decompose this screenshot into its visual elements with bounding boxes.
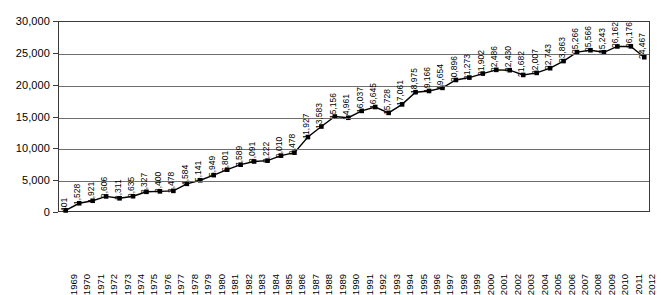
data-point-label: 22,430 <box>504 46 513 72</box>
data-point-label: 19,166 <box>423 67 432 93</box>
data-point-label: 25,566 <box>584 26 593 52</box>
x-tick-label: 1995 <box>419 274 429 295</box>
data-point-label: 9,010 <box>275 136 284 157</box>
x-tick-label: 2001 <box>499 274 509 295</box>
x-tick-label: 1993 <box>392 274 402 295</box>
x-tick-label: 2009 <box>607 274 617 295</box>
x-tick-label: 2002 <box>513 274 523 295</box>
data-point-label: 26,176 <box>625 22 634 48</box>
data-point-label: 3,400 <box>154 172 163 193</box>
x-tick-label: 1997 <box>445 274 455 295</box>
data-point-label: 19,654 <box>436 64 445 90</box>
y-tick-label: 20,000 <box>16 79 50 90</box>
gridline <box>59 149 649 150</box>
y-axis: 30,00025,00020,00015,00010,0005,0000 <box>0 0 58 214</box>
gridline <box>59 86 649 87</box>
data-point-label: 21,273 <box>463 54 472 80</box>
data-point-label: 11,927 <box>302 114 311 139</box>
data-point-label: 17,061 <box>396 80 405 106</box>
data-point-label: 2,606 <box>100 177 109 198</box>
y-tick-mark <box>53 212 58 213</box>
x-tick-label: 2004 <box>540 274 550 295</box>
y-tick-label: 5,000 <box>22 175 50 186</box>
data-point-label: 24,467 <box>638 33 647 59</box>
data-point-label: 1,921 <box>87 181 96 202</box>
data-point-label: 14,961 <box>342 94 351 120</box>
x-tick-label: 2012 <box>647 274 657 295</box>
data-point-label: 1,528 <box>73 184 82 205</box>
x-tick-label: 1972 <box>109 274 119 295</box>
x-tick-label: 1984 <box>271 274 281 295</box>
x-tick-label: 1986 <box>297 274 307 295</box>
data-point-label: 26,162 <box>611 22 620 48</box>
y-tick-label: 25,000 <box>16 47 50 58</box>
x-tick-label: 2000 <box>486 274 496 295</box>
x-tick-label: 1987 <box>311 274 321 295</box>
data-point-label: 23,863 <box>558 37 567 63</box>
x-tick-label: 2010 <box>620 274 630 295</box>
x-tick-label: 1973 <box>123 274 133 295</box>
data-point-label: 5,949 <box>208 156 217 177</box>
x-tick-label: 1998 <box>459 274 469 295</box>
x-tick-label: 1988 <box>324 274 334 295</box>
data-point-label: 16,645 <box>369 83 378 109</box>
x-tick-label: 1983 <box>257 274 267 295</box>
x-tick-label: 1989 <box>338 274 348 295</box>
x-tick-label: 1976 <box>163 274 173 295</box>
data-point-label: 5,141 <box>194 161 203 182</box>
x-tick-label: 1974 <box>136 274 146 295</box>
data-point-label: 401 <box>60 198 69 212</box>
y-tick-label: 15,000 <box>16 111 50 122</box>
x-tick-label: 1991 <box>365 274 375 295</box>
x-tick-label: 1978 <box>190 274 200 295</box>
x-tick-label: 1981 <box>230 274 240 295</box>
data-point-label: 4,584 <box>181 165 190 186</box>
x-tick-label: 2006 <box>567 274 577 295</box>
data-point-label: 18,975 <box>410 68 419 94</box>
x-tick-label: 1982 <box>244 274 254 295</box>
x-tick-label: 1980 <box>217 274 227 295</box>
data-point-label: 9,478 <box>288 133 297 154</box>
data-point-label: 21,902 <box>477 50 486 76</box>
data-point-label: 25,243 <box>598 28 607 54</box>
data-point-label: 8,091 <box>248 142 257 163</box>
x-tick-label: 1994 <box>405 274 415 295</box>
gridline <box>59 118 649 119</box>
data-point-label: 8,222 <box>262 141 271 162</box>
y-tick-label: 30,000 <box>16 16 50 27</box>
x-tick-label: 1985 <box>284 274 294 295</box>
x-tick-label: 1971 <box>96 274 106 295</box>
x-tick-label: 1969 <box>69 274 79 295</box>
data-point-label: 15,156 <box>329 93 338 119</box>
x-tick-label: 1977 <box>176 274 186 295</box>
y-tick-label: 10,000 <box>16 143 50 154</box>
x-tick-label: 2011 <box>634 274 644 294</box>
x-tick-label: 2005 <box>553 274 563 295</box>
data-point-label: 3,478 <box>167 172 176 193</box>
x-tick-label: 2003 <box>526 274 536 295</box>
data-point-label: 2,635 <box>127 177 136 198</box>
x-tick-label: 1990 <box>351 274 361 295</box>
data-point-label: 13,583 <box>315 103 324 129</box>
data-point-label: 21,682 <box>517 51 526 77</box>
data-point-label: 25,266 <box>571 28 580 54</box>
x-axis: 1969197019711972197319741975197619771978… <box>58 214 650 279</box>
data-point-label: 6,801 <box>221 150 230 171</box>
x-tick-label: 2007 <box>580 274 590 295</box>
data-point-label: 2,311 <box>114 180 123 201</box>
y-tick-label: 0 <box>44 207 50 218</box>
x-tick-label: 1992 <box>378 274 388 295</box>
data-point-label: 22,743 <box>544 44 553 70</box>
x-tick-label: 1975 <box>149 274 159 295</box>
data-point-label: 16,037 <box>356 87 365 113</box>
x-tick-label: 1970 <box>82 274 92 295</box>
data-point-label: 22,007 <box>531 49 540 75</box>
data-point-label: 20,896 <box>450 56 459 82</box>
x-tick-label: 1996 <box>432 274 442 295</box>
data-point-label: 7,589 <box>235 145 244 166</box>
x-tick-label: 1999 <box>472 274 482 295</box>
data-point-label: 15,728 <box>383 89 392 115</box>
x-tick-label: 1979 <box>203 274 213 295</box>
x-tick-label: 2008 <box>593 274 603 295</box>
